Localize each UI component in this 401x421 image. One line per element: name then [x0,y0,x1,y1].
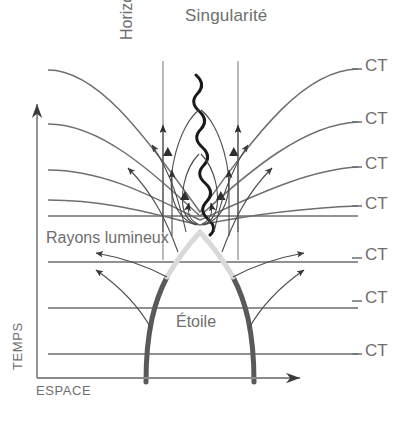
trapped-ray-arc-outer-right [201,110,229,225]
ct-line-curved-1 [48,69,358,212]
star-surface-right-dark [233,277,254,382]
singularity-wavy-line [194,75,214,235]
escaping-ray-left-1 [96,253,167,277]
ct-tick-group [352,69,362,354]
star-surface-right-light [200,232,233,277]
ct-label-7: CT [365,341,388,361]
ct-label-3: CT [365,154,388,174]
diagram-canvas [0,0,401,421]
trapped-arrow-3 [163,147,173,156]
spacetime-diagram: Singularité Horizon Rayons lumineux Étoi… [0,0,401,421]
ct-label-5: CT [365,245,388,265]
trapped-arrow-4 [229,147,239,156]
ct-label-4: CT [365,194,388,214]
x-axis-label: ESPACE [36,383,91,398]
ct-label-6: CT [365,288,388,308]
ct-line-curved-2 [48,122,358,216]
star-surface-left-dark [146,277,167,382]
ct-label-2: CT [365,109,388,129]
escaping-ray-right-1 [233,253,304,277]
label-rayons-lumineux: Rayons lumineux [46,229,169,247]
escaping-ray-right-2 [248,270,304,330]
label-horizon: Horizon [118,0,136,40]
ct-label-1: CT [365,56,388,76]
label-singularite: Singularité [185,6,268,26]
trapped-ray-arc-inner-left [183,154,199,225]
escaping-ray-left-2 [96,270,152,330]
label-etoile: Étoile [176,313,216,331]
star-surface-left-light [167,232,200,277]
y-axis-label: TEMPS [10,322,25,370]
